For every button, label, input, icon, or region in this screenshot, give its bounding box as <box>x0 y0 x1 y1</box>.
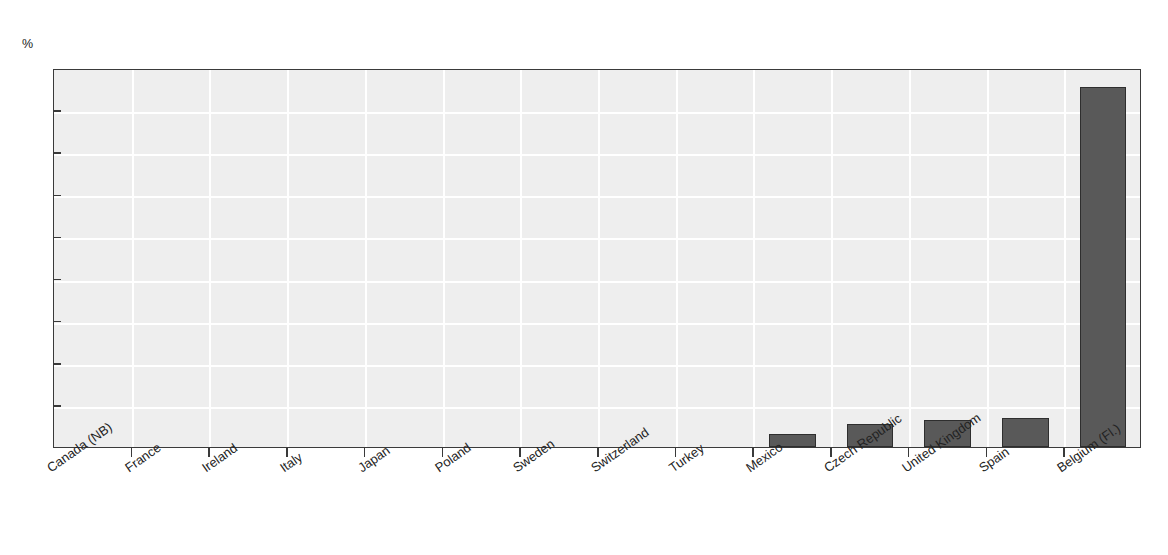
x-axis-tick-label: Spain <box>976 444 1012 475</box>
x-axis-tick-label: United Kingdom <box>899 410 983 475</box>
y-axis-tick-mark <box>53 195 61 197</box>
x-axis-tick-label: France <box>122 440 164 475</box>
y-axis-tick-mark <box>53 363 61 365</box>
x-axis-tick-label: Poland <box>432 440 474 476</box>
x-axis-tick-label: Mexico <box>743 439 785 475</box>
x-axis-tick-label: Canada (NB) <box>44 419 115 475</box>
y-axis-tick-mark <box>53 110 61 112</box>
x-axis-tick-label: Switzerland <box>588 424 652 475</box>
x-axis-tick-label: Belgium (Fl.) <box>1054 421 1123 476</box>
x-axis-tick-label: Ireland <box>199 440 240 475</box>
y-axis-tick-mark <box>53 152 61 154</box>
y-axis-tick-mark <box>53 405 61 407</box>
x-axis-tick-label: Czech Republic <box>821 411 904 476</box>
x-axis-tick-label: Turkey <box>666 440 707 475</box>
y-axis-tick-mark <box>53 279 61 281</box>
x-axis-tick-label: Sweden <box>510 436 557 475</box>
x-axis-labels: Canada (NB)FranceIrelandItalyJapanPoland… <box>0 0 1168 555</box>
x-axis-tick-label: Japan <box>355 443 393 476</box>
x-axis-tick-label: Italy <box>277 449 305 475</box>
chart-figure: % 024681012141618 Canada (NB)FranceIrela… <box>0 0 1168 555</box>
y-axis-tick-mark <box>53 321 61 323</box>
y-axis-tick-mark <box>53 237 61 239</box>
